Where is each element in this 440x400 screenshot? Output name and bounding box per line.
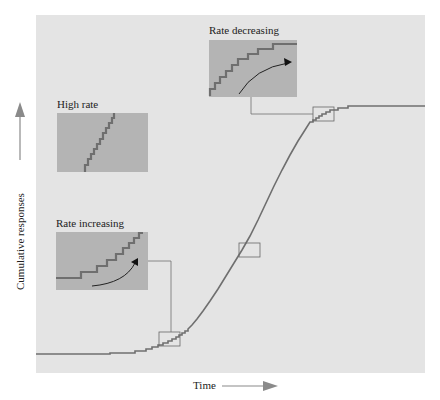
x-axis-label-group: Time: [193, 379, 278, 391]
inset-high-rate: [57, 113, 148, 172]
y-axis-label: Cumulative responses: [14, 193, 26, 290]
label-rate-increasing: Rate increasing: [56, 217, 125, 229]
inset-rate-decreasing: [209, 40, 297, 97]
x-axis-arrow-icon: [263, 381, 278, 391]
y-axis-label-group: Cumulative responses: [14, 102, 26, 290]
label-high-rate: High rate: [57, 98, 98, 110]
cumulative-record-figure: Rate decreasing High rate Rate increasin…: [0, 0, 440, 400]
label-rate-decreasing: Rate decreasing: [209, 24, 279, 36]
x-axis-label: Time: [193, 379, 216, 391]
y-axis-arrow-icon: [15, 102, 25, 117]
